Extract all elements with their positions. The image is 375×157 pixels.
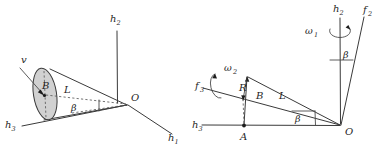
left-cone-upper-edge [50, 69, 127, 105]
left-h1-axis-line [128, 105, 172, 134]
right-omega2-subscript: 2 [232, 68, 237, 76]
right-point-a-dot [242, 124, 246, 128]
right-omega2-label: ω [224, 62, 232, 73]
right-r-label: R [238, 82, 247, 93]
left-v-label: v [21, 54, 27, 65]
right-a-label: A [239, 131, 247, 142]
left-h1-subscript: 1 [175, 138, 179, 146]
right-h2-label: h [333, 3, 339, 14]
left-panel: h 2 h 1 h 3 v B L β O [5, 13, 179, 146]
left-h3-label: h [5, 119, 11, 130]
right-omega1-label: ω [305, 25, 313, 36]
left-h1-label: h [168, 132, 174, 143]
right-beta-lower-tick [315, 111, 316, 125]
right-h2-axis-line [340, 18, 341, 124]
left-b-label: B [41, 80, 49, 91]
right-h3-axis-line [202, 125, 340, 126]
right-o-label: O [345, 126, 353, 137]
right-h2-subscript: 2 [339, 9, 344, 17]
right-omega1-arrowhead [346, 25, 351, 30]
right-f2-subscript: 2 [367, 10, 372, 18]
left-o-label: O [131, 92, 139, 103]
right-omega2-arrowhead [212, 74, 217, 79]
figure-svg: h 2 h 1 h 3 v B L β O [0, 0, 375, 157]
right-cone-upper-edge [248, 77, 340, 125]
right-beta-upper-label: β [342, 49, 349, 60]
left-axis-l-dashed [46, 95, 126, 104]
left-h2-axis-line [117, 31, 118, 103]
right-h3-subscript: 3 [199, 125, 203, 133]
left-h2-subscript: 2 [116, 19, 121, 27]
right-panel: h 2 f 2 ω 1 β ω 2 f 3 R B L β h 3 A O [192, 3, 372, 142]
figure-container: h 2 h 1 h 3 v B L β O [0, 0, 375, 157]
right-f2-axis-line [341, 17, 364, 125]
right-beta-lower-label: β [294, 113, 301, 124]
right-omega1-subscript: 1 [314, 31, 318, 39]
right-f3-axis-line [203, 88, 340, 125]
right-b-label: B [255, 90, 263, 101]
left-h2-label: h [110, 13, 116, 24]
left-l-label: L [63, 84, 71, 95]
right-h3-label: h [192, 119, 198, 130]
right-l-label: L [278, 90, 286, 101]
left-beta-label: β [70, 102, 77, 113]
right-f3-subscript: 3 [200, 86, 204, 94]
left-h3-subscript: 3 [12, 125, 16, 133]
